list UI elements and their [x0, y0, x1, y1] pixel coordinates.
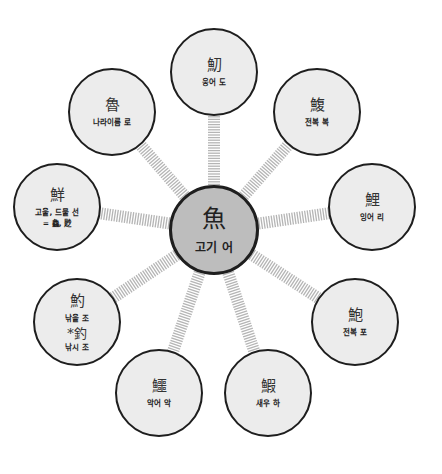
- node-bottom-mid-right: 鰕 새우 하: [224, 349, 312, 437]
- connector-bottom-right: [247, 248, 323, 304]
- node-hanja: 魛: [207, 56, 222, 74]
- node-hanja: 鮑: [348, 306, 363, 324]
- node-gloss: 고울, 드물 선: [35, 207, 78, 218]
- node-bottom-left: 魡 낚을 조 *釣 낚시 조: [33, 278, 121, 366]
- center-gloss: 고기 어: [195, 240, 232, 256]
- connector-left: [99, 207, 173, 229]
- node-right: 鯉 잉어 리: [328, 163, 416, 251]
- connector-top-right: [238, 141, 293, 202]
- node-bottom-mid-left: 鱷 악어 악: [115, 349, 203, 437]
- node-top-left: 魯 나라이름 로: [68, 68, 156, 156]
- node-left: 鮮 고울, 드물 선 = 鱻, 尟: [13, 163, 101, 251]
- node-gloss: 악어 악: [147, 398, 171, 409]
- node-gloss: 전복 포: [343, 327, 367, 338]
- connector-bottom-mid-right: [222, 269, 260, 354]
- node-hanja: 鰕: [261, 377, 276, 395]
- node-hanja: 鱷: [152, 377, 167, 395]
- node-hanja: 魯: [105, 96, 120, 114]
- node-gloss: 잉어 리: [360, 212, 384, 223]
- center-hanja: 魚: [202, 204, 226, 234]
- node-sub-gloss: 낚시 조: [65, 342, 89, 353]
- node-gloss-variants: = 鱻, 尟: [43, 218, 71, 229]
- node-hanja: 鮮: [50, 186, 65, 204]
- connector-top-left: [135, 140, 190, 201]
- node-hanja: 鯉: [365, 191, 380, 209]
- center-node-fish: 魚 고기 어: [169, 185, 259, 275]
- node-sub-hanja: *釣: [67, 326, 87, 341]
- node-gloss: 낚을 조: [65, 313, 89, 324]
- node-gloss: 나라이름 로: [93, 117, 131, 128]
- node-gloss: 전복 복: [305, 117, 329, 128]
- node-hanja: 魡: [70, 292, 85, 310]
- node-gloss: 웅어 도: [202, 77, 226, 88]
- node-hanja: 鰒: [310, 96, 325, 114]
- connector-bottom-mid-left: [167, 269, 206, 354]
- connector-right: [256, 207, 330, 229]
- connector-top: [208, 114, 220, 187]
- node-bottom-right: 鮑 전복 포: [311, 278, 399, 366]
- connector-bottom-left: [110, 249, 181, 302]
- node-gloss: 새우 하: [256, 398, 280, 409]
- node-top-right: 鰒 전복 복: [273, 68, 361, 156]
- node-top: 魛 웅어 도: [170, 28, 258, 116]
